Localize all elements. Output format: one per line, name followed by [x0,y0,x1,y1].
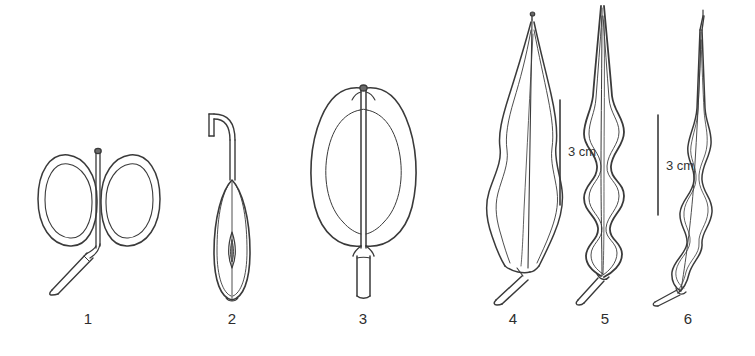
figure-3-drawing [311,85,416,298]
figure-caption-3: 3 [343,310,383,327]
figure-caption-6: 6 [668,310,708,327]
figure-1-drawing [38,148,160,295]
figure-caption-4: 4 [493,310,533,327]
plate-artwork [0,0,755,356]
figure-2-drawing [209,114,250,301]
figure-4-drawing [486,12,562,305]
figure-caption-5: 5 [585,310,625,327]
figure-caption-2: 2 [212,310,252,327]
scale-bar-left-label: 3 cm [568,144,596,159]
figure-caption-1: 1 [68,310,108,327]
botanical-plate: 1 2 3 4 5 6 3 cm 3 cm [0,0,755,356]
scale-bar-right-label: 3 cm [666,158,694,173]
